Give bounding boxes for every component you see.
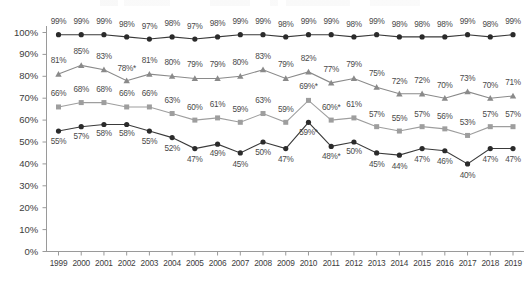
data-point-marker [351,75,357,81]
data-point-marker [306,120,311,125]
data-point-marker [56,104,61,109]
data-point-marker [192,36,197,41]
data-point-label: 53% [454,118,482,127]
y-axis-tick-label: 50% [2,136,38,147]
data-point-marker [283,146,288,151]
data-point-marker [147,36,152,41]
y-axis-tick-label: 30% [2,180,38,191]
data-point-marker [442,126,447,131]
data-point-marker [488,34,493,39]
data-point-marker [79,100,84,105]
data-point-marker [351,139,356,144]
data-point-marker [488,124,493,129]
x-axis-ticks [59,252,514,256]
data-point-label: 59% [272,105,300,114]
data-point-label: 57% [499,110,527,119]
data-point-marker [442,148,447,153]
data-point-marker [397,34,402,39]
data-point-label: 99% [499,17,527,26]
data-point-marker [351,115,356,120]
y-axis-tick-label: 90% [2,48,38,59]
data-point-marker [170,34,175,39]
data-point-marker [283,34,288,39]
data-point-label: 46% [431,157,459,166]
data-point-marker [238,120,243,125]
data-point-marker [260,139,265,144]
data-point-label: 69%* [294,82,322,91]
data-point-marker [124,34,129,39]
y-axis-tick-label: 80% [2,70,38,81]
data-point-marker [374,150,379,155]
data-point-marker [79,32,84,37]
data-point-marker [192,118,197,123]
data-point-label: 59% [226,105,254,114]
data-point-label: 47% [272,155,300,164]
data-point-marker [511,124,516,129]
data-point-label: 81% [45,56,73,65]
chart-series-group [55,32,516,166]
data-point-label: 71% [499,78,527,87]
data-point-marker [329,144,334,149]
data-point-marker [78,62,84,68]
data-point-marker [464,88,470,94]
data-point-marker [101,100,106,105]
data-point-marker [170,135,175,140]
line-chart-plot [0,0,528,282]
data-point-marker [215,142,220,147]
data-point-label: 79% [340,60,368,69]
data-point-marker [238,32,243,37]
data-point-marker [124,104,129,109]
data-point-marker [124,122,129,127]
data-point-marker [215,115,220,120]
chart-series-series-1 [56,32,516,42]
data-point-label: 45% [226,160,254,169]
data-point-label: 40% [454,171,482,180]
data-point-label: 82% [294,54,322,63]
data-point-marker [261,111,266,116]
data-point-marker [442,34,447,39]
data-point-marker [101,122,106,127]
data-point-marker [283,120,288,125]
data-point-marker [215,34,220,39]
data-point-marker [510,32,515,37]
y-axis-tick-label: 10% [2,224,38,235]
x-axis-tick-label: 2019 [498,258,528,268]
data-point-marker [374,32,379,37]
data-point-marker [56,128,61,133]
data-point-marker [420,34,425,39]
data-point-marker [306,32,311,37]
data-point-marker [397,129,402,134]
data-point-label: 49% [204,149,232,158]
data-point-marker [465,161,470,166]
data-point-marker [147,104,152,109]
data-point-marker [510,146,515,151]
data-point-marker [260,67,266,73]
chart-container: 0%10%20%30%40%50%60%70%80%90%100% 199920… [0,0,528,282]
y-axis-tick-label: 100% [2,27,38,38]
data-point-marker [465,133,470,138]
data-point-label: 63% [249,96,277,105]
data-point-marker [101,32,106,37]
data-point-label: 52% [158,144,186,153]
data-point-marker [147,128,152,133]
data-point-marker [329,118,334,123]
y-axis-tick-label: 0% [2,246,38,257]
data-point-marker [192,146,197,151]
data-point-marker [305,69,311,75]
data-point-marker [306,98,311,103]
data-point-label: 61% [340,100,368,109]
data-point-label: 50% [340,147,368,156]
data-point-marker [238,150,243,155]
data-point-marker [420,124,425,129]
y-axis-tick-label: 60% [2,114,38,125]
data-point-marker [260,32,265,37]
data-point-label: 83% [249,52,277,61]
data-point-marker [329,32,334,37]
data-point-marker [56,32,61,37]
data-point-marker [374,124,379,129]
data-point-label: 83% [90,52,118,61]
y-axis-tick-label: 20% [2,202,38,213]
data-point-marker [170,111,175,116]
y-axis-tick-label: 70% [2,92,38,103]
data-point-label: 47% [499,155,527,164]
